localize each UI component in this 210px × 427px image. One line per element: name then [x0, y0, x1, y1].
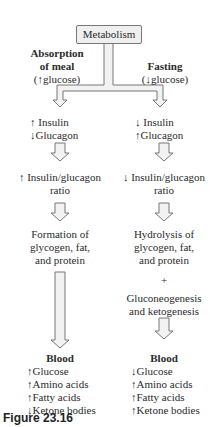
figure-label: Figure 23.16	[3, 411, 73, 425]
right-blood-list: ↓Glucose ↑Amino acids ↑Fatty acids ↑Keto…	[131, 365, 210, 417]
left-insulin: ↑ Insulin	[30, 116, 110, 129]
right-blood-ketone-bodies: ↑Ketone bodies	[131, 404, 210, 417]
right-process-line2: glycogen, fat,	[114, 241, 210, 254]
left-blood-amino-acids: ↑Amino acids	[27, 378, 112, 391]
metabolism-label: Metabolism	[83, 28, 136, 40]
right-process-line3: and protein	[114, 254, 210, 267]
absorption-heading: Absorption of meal	[22, 47, 92, 73]
right-process2: Gluconeogenesis and ketogenesis	[109, 292, 210, 318]
left-process-line2: glycogen, fat,	[10, 241, 110, 254]
plus-sign: +	[114, 274, 210, 287]
left-blood-heading: Blood	[20, 352, 100, 365]
right-ratio-line2: ratio	[114, 184, 210, 197]
ketogenesis-label: and ketogenesis	[109, 305, 210, 318]
left-process-line1: Formation of	[10, 228, 110, 241]
left-ratio-line1: ↑ Insulin/glucagon	[10, 171, 110, 184]
absorption-glucose-note: (↑glucose)	[22, 73, 92, 86]
metabolism-box: Metabolism	[76, 25, 142, 44]
left-blood-fatty-acids: ↑Fatty acids	[27, 391, 112, 404]
left-process: Formation of glycogen, fat, and protein	[10, 228, 110, 267]
left-ratio-line2: ratio	[10, 184, 110, 197]
right-blood-amino-acids: ↑Amino acids	[131, 378, 210, 391]
gluconeogenesis-label: Gluconeogenesis	[109, 292, 210, 305]
right-ratio-line1: ↓ Insulin/glucagon	[114, 171, 210, 184]
right-blood-heading: Blood	[124, 352, 204, 365]
fasting-glucose-note: (↓glucose)	[130, 73, 200, 86]
left-ratio: ↑ Insulin/glucagon ratio	[10, 171, 110, 197]
right-process: Hydrolysis of glycogen, fat, and protein	[114, 228, 210, 267]
right-blood-fatty-acids: ↑Fatty acids	[131, 391, 210, 404]
right-hormones: ↓ Insulin ↑Glucagon	[135, 116, 210, 142]
left-glucagon: ↓Glucagon	[30, 129, 110, 142]
right-blood-glucose: ↓Glucose	[131, 365, 210, 378]
left-hormones: ↑ Insulin ↓Glucagon	[30, 116, 110, 142]
right-ratio: ↓ Insulin/glucagon ratio	[114, 171, 210, 197]
absorption-heading-line2: of meal	[22, 60, 92, 73]
fasting-heading: Fasting	[130, 60, 200, 73]
right-glucagon: ↑Glucagon	[135, 129, 210, 142]
right-insulin: ↓ Insulin	[135, 116, 210, 129]
left-blood-list: ↑Glucose ↑Amino acids ↑Fatty acids ↓Keto…	[27, 365, 112, 417]
left-blood-glucose: ↑Glucose	[27, 365, 112, 378]
right-process-line1: Hydrolysis of	[114, 228, 210, 241]
absorption-heading-line1: Absorption	[22, 47, 92, 60]
left-process-line3: and protein	[10, 254, 110, 267]
